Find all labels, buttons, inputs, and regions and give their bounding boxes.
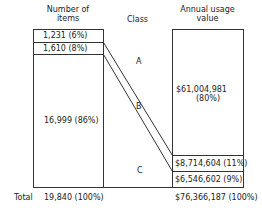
value-class-a-amount: $61,004,981 [176,85,227,94]
items-class-b: 1,610 (8%) [43,44,87,53]
value-class-b: $8,714,604 (11%) [175,159,247,168]
value-class-c: $6,546,602 (9%) [175,175,242,184]
value-header-line2: value [172,14,243,23]
value-class-a: $61,004,981 (80%) [176,85,227,103]
items-class-c: 16,999 (86%) [44,116,99,125]
value-header-line1: Annual usage [172,5,243,14]
items-header-line1: Number of [33,5,103,14]
items-header-line2: items [33,14,103,23]
total-items: 19,840 (100%) [44,193,104,202]
class-header: Class [103,15,172,24]
class-label-a: A [136,57,141,66]
items-class-a: 1,231 (6%) [43,31,87,40]
total-value: $76,366,187 (100%) [175,193,258,202]
value-class-a-percent: (80%) [176,94,227,103]
class-label-c: C [137,166,143,175]
total-label: Total [14,193,33,202]
items-header: Number of items [33,5,103,23]
class-label-b: B [136,102,142,111]
value-header: Annual usage value [172,5,243,23]
